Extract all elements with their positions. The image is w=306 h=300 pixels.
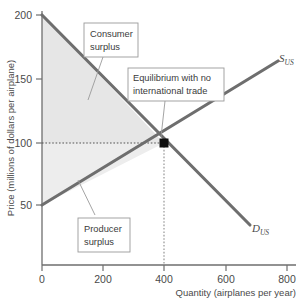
y-tick-label-100: 100 <box>14 137 32 149</box>
callout-equilibrium: Equilibrium with no international trade <box>128 68 224 101</box>
x-tick-label-200: 200 <box>94 273 112 285</box>
demand-curve-label-sub: US <box>260 228 269 237</box>
callout-consumer-surplus-line1: Consumer <box>90 29 133 39</box>
y-tick-label-200: 200 <box>14 9 32 21</box>
callout-consumer-surplus: Consumer surplus <box>84 23 138 57</box>
callout-consumer-surplus-line2: surplus <box>90 42 120 52</box>
demand-curve-label: DUS <box>251 222 269 237</box>
callout-producer-surplus-line1: Producer <box>84 224 122 234</box>
supply-curve-label: SUS <box>279 52 294 67</box>
x-tick-label-800: 800 <box>278 273 296 285</box>
y-axis-title: Price (millions of dollars per airplane) <box>5 60 16 216</box>
y-tick-label-150: 150 <box>14 73 32 85</box>
callout-producer-surplus-line2: surplus <box>84 237 114 247</box>
supply-curve-label-sub: US <box>285 58 294 67</box>
callout-equilibrium-line1: Equilibrium with no <box>133 73 211 83</box>
x-tick-label-0: 0 <box>39 273 45 285</box>
callout-producer-surplus: Producer surplus <box>78 218 130 252</box>
x-axis-title: Quantity (airplanes per year) <box>176 287 296 298</box>
producer-surplus-region <box>42 143 164 205</box>
callout-equilibrium-line2: international trade <box>133 86 207 96</box>
producer-surplus-leader <box>78 180 95 215</box>
x-tick-label-400: 400 <box>155 273 173 285</box>
x-tick-label-600: 600 <box>217 273 235 285</box>
y-tick-label-50: 50 <box>20 199 32 211</box>
equilibrium-point-marker <box>160 139 169 148</box>
economics-supply-demand-chart: 50 100 150 200 0 200 400 600 800 Price (… <box>0 0 306 300</box>
demand-curve-label-main: D <box>251 222 260 234</box>
